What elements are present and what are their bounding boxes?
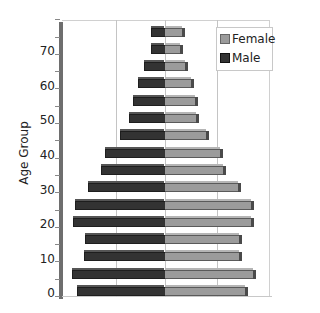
bar-female-35 <box>165 166 224 175</box>
bar-female-60 <box>165 79 192 88</box>
y-tick-label: 0 <box>25 286 55 300</box>
legend-item-female: Female <box>220 32 275 46</box>
bar-female-70 <box>165 45 181 54</box>
y-tick-mark <box>55 192 60 193</box>
legend-label-female: Female <box>232 32 275 46</box>
y-tick-mark <box>55 261 60 262</box>
bar-male-50 <box>129 114 165 123</box>
bar-male-5 <box>72 270 165 279</box>
y-tick-label: 50 <box>25 113 55 127</box>
y-tick-mark <box>55 106 60 107</box>
bar-male-35 <box>101 166 165 175</box>
bar-male-0 <box>77 287 165 296</box>
y-tick-mark <box>55 123 60 124</box>
bar-male-10 <box>84 252 165 261</box>
bar-female-5 <box>165 270 254 279</box>
y-tick-mark <box>55 279 60 280</box>
bar-male-20 <box>73 218 165 227</box>
bar-female-10 <box>165 252 240 261</box>
y-tick-mark <box>55 175 60 176</box>
y-tick-mark <box>55 158 60 159</box>
bar-female-55 <box>165 97 196 106</box>
y-tick-mark <box>55 244 60 245</box>
bar-male-65 <box>144 62 165 71</box>
y-tick-mark <box>55 37 60 38</box>
y-tick-label: 60 <box>25 79 55 93</box>
x-axis-floor <box>62 296 272 297</box>
legend: Female Male <box>216 27 273 71</box>
bar-male-40 <box>105 149 165 158</box>
bar-female-65 <box>165 62 186 71</box>
bar-male-55 <box>133 97 165 106</box>
bar-female-20 <box>165 218 252 227</box>
y-tick-label: 70 <box>25 44 55 58</box>
y-axis-wall <box>59 22 63 299</box>
bar-female-0 <box>165 287 246 296</box>
bar-male-75 <box>151 28 165 37</box>
y-tick-label: 10 <box>25 252 55 266</box>
y-tick-label: 20 <box>25 217 55 231</box>
y-tick-mark <box>55 227 60 228</box>
bar-female-75 <box>165 28 183 37</box>
y-tick-mark <box>55 54 60 55</box>
bar-female-15 <box>165 235 240 244</box>
bar-male-70 <box>151 45 165 54</box>
y-tick-label: 40 <box>25 148 55 162</box>
bar-female-25 <box>165 201 252 210</box>
bar-male-45 <box>120 131 165 140</box>
bar-male-60 <box>138 79 165 88</box>
y-tick-mark <box>55 71 60 72</box>
y-tick-mark <box>55 140 60 141</box>
bar-female-40 <box>165 149 221 158</box>
bar-male-15 <box>85 235 165 244</box>
bar-female-30 <box>165 183 239 192</box>
male-swatch-icon <box>220 53 230 63</box>
bar-male-25 <box>75 201 165 210</box>
y-tick-label: 30 <box>25 183 55 197</box>
y-tick-mark <box>55 210 60 211</box>
bar-female-50 <box>165 114 197 123</box>
y-tick-mark <box>55 296 60 297</box>
legend-item-male: Male <box>220 51 260 65</box>
y-tick-mark <box>55 19 60 20</box>
bar-male-30 <box>88 183 165 192</box>
legend-label-male: Male <box>232 51 260 65</box>
bar-female-45 <box>165 131 207 140</box>
y-tick-mark <box>55 88 60 89</box>
female-swatch-icon <box>220 34 230 44</box>
